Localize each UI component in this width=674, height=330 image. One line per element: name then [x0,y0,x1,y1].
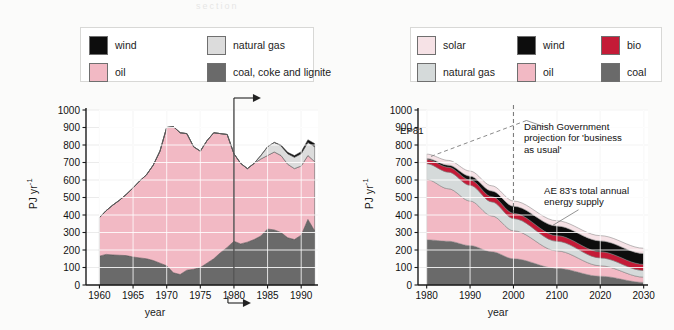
figure-canvas: section wind natural gas oil coal [0,0,674,330]
right-chart: solar wind bio natural gas oil [338,0,674,330]
annotation-ep81: EP81 [400,125,423,136]
annotation-ae83-supply: AE 83's total annual energy supply [544,185,674,208]
left-plot-svg [0,0,338,330]
left-chart: wind natural gas oil coal, coke and lign… [0,0,338,330]
annotation-government-projection: Danish Government projection for 'busine… [524,121,664,155]
right-plot-svg [338,0,674,330]
